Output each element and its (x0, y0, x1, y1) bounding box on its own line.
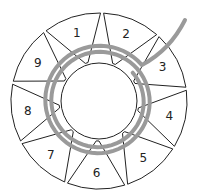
segment-label-2: 2 (122, 27, 130, 41)
segment-label-7: 7 (47, 148, 55, 162)
segment-label-5: 5 (140, 151, 148, 165)
segment-label-9: 9 (34, 56, 42, 70)
inner-circle (61, 63, 137, 139)
segment-label-3: 3 (159, 60, 167, 74)
segment-label-4: 4 (166, 109, 174, 123)
segment-label-8: 8 (24, 104, 32, 118)
segment-label-1: 1 (73, 26, 81, 40)
segment-ring-diagram: 123456789 (0, 0, 198, 191)
segment-label-6: 6 (93, 166, 101, 180)
segment-5 (123, 132, 173, 185)
